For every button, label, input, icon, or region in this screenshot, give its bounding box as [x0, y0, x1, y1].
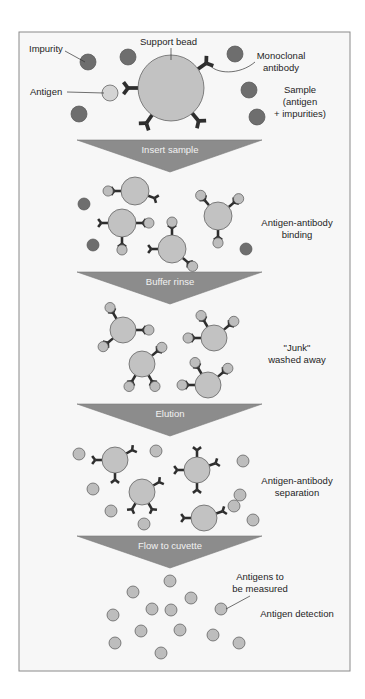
- antigen: [223, 363, 233, 373]
- antigen: [117, 245, 127, 255]
- support-bead: [184, 457, 210, 483]
- antigen: [144, 218, 154, 228]
- callout-text: be measured: [232, 583, 287, 594]
- support-bead: [138, 55, 204, 121]
- impurity: [240, 243, 252, 255]
- step-label: Insert sample: [141, 144, 198, 155]
- callout-text: antibody: [263, 62, 299, 73]
- antigen: [150, 445, 162, 457]
- support-bead: [195, 372, 221, 398]
- support-bead: [129, 351, 155, 377]
- stage-label-text: separation: [275, 487, 319, 498]
- antigen: [124, 381, 134, 391]
- antigen: [213, 238, 223, 248]
- support-bead: [158, 235, 186, 263]
- stage-label-text: Antigen-antibody: [261, 475, 333, 486]
- antigen: [127, 586, 139, 598]
- support-bead: [191, 505, 217, 531]
- antigen: [177, 380, 187, 390]
- antigen: [247, 514, 259, 526]
- antigen: [98, 342, 108, 352]
- support-bead: [108, 209, 136, 237]
- antigen: [234, 194, 244, 204]
- antigen: [73, 448, 85, 460]
- callout-text: Monoclonal: [257, 50, 306, 61]
- antigen: [144, 325, 154, 335]
- antigen: [196, 310, 206, 320]
- impurity: [71, 106, 87, 122]
- antigen: [103, 186, 113, 196]
- antigen: [109, 637, 121, 649]
- antigen: [155, 647, 167, 659]
- antigen: [228, 500, 240, 512]
- antigen: [207, 629, 219, 641]
- impurity: [120, 49, 136, 65]
- stage-label-detection: Antigen detection: [260, 608, 333, 619]
- support-bead: [110, 317, 136, 343]
- antigen: [237, 455, 249, 467]
- stage-label-text: Antigen detection: [260, 608, 333, 619]
- antigen: [234, 489, 246, 501]
- callout-text: Antigens to: [236, 571, 284, 582]
- callout-text: Antigen: [30, 86, 62, 97]
- stage-label-text: (antigen: [283, 96, 317, 107]
- antigen: [196, 190, 206, 200]
- antigen: [174, 624, 186, 636]
- antigen: [105, 302, 115, 312]
- callout-text: Support bead: [140, 36, 197, 47]
- callout-text: Impurity: [29, 43, 63, 54]
- step-label: Elution: [155, 408, 184, 419]
- impurity: [87, 239, 99, 251]
- antigen: [105, 505, 117, 517]
- stage-label-text: + impurities): [274, 108, 326, 119]
- step-label: Flow to cuvette: [138, 540, 202, 551]
- antigen: [233, 637, 245, 649]
- antigen: [167, 217, 177, 227]
- antigen: [164, 575, 176, 587]
- antigen: [190, 357, 200, 367]
- step-label: Buffer rinse: [146, 276, 194, 287]
- support-bead: [102, 447, 128, 473]
- immunoaffinity-diagram: Insert sampleBuffer rinseElutionFlow to …: [0, 0, 365, 699]
- stage-label-text: Antigen-antibody: [261, 217, 333, 228]
- antigen: [150, 381, 160, 391]
- antigen: [157, 342, 167, 352]
- antigen: [102, 85, 118, 101]
- antigen: [185, 592, 197, 604]
- antigen: [138, 518, 150, 530]
- antigen: [229, 316, 239, 326]
- impurity: [78, 198, 90, 210]
- impurity: [227, 46, 243, 62]
- support-bead: [201, 325, 227, 351]
- antigen: [215, 603, 227, 615]
- support-bead: [121, 177, 149, 205]
- antigen: [165, 604, 177, 616]
- antigen: [87, 483, 99, 495]
- impurity: [241, 82, 257, 98]
- antigen: [146, 603, 158, 615]
- support-bead: [129, 479, 155, 505]
- antigen: [188, 261, 198, 271]
- stage-label-text: washed away: [267, 354, 326, 365]
- stage-label-text: "Junk": [284, 342, 311, 353]
- impurity: [80, 54, 96, 70]
- impurity: [249, 109, 265, 125]
- antigen: [135, 625, 147, 637]
- antigen: [183, 333, 193, 343]
- support-bead: [204, 202, 232, 230]
- stage-label-text: Sample: [284, 84, 316, 95]
- antigen: [107, 609, 119, 621]
- stage-label-text: binding: [282, 229, 313, 240]
